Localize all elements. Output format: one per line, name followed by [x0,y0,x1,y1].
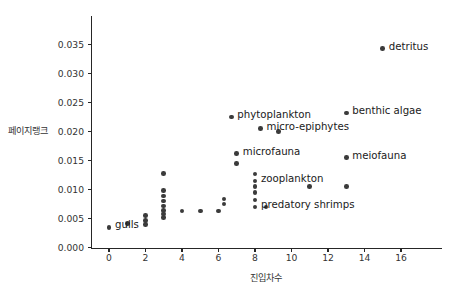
y-tick-label: 0.005 [40,214,84,223]
data-point-labeled [380,46,385,51]
data-point [253,198,258,203]
y-tick-label: 0.020 [40,127,84,136]
point-annotation: predatory shrimps [261,200,355,210]
data-point-labeled [229,115,234,120]
scatter-chart-figure: 페이지랭크 진입차수 0.0000.0050.0100.0150.0200.02… [0,0,452,304]
x-tick-label: 8 [240,253,270,262]
point-annotation: meiofauna [352,151,406,161]
x-axis-title: 진입차수 [196,273,336,282]
data-point [198,209,203,214]
data-point-labeled [253,205,258,210]
point-annotation: microfauna [243,147,301,157]
data-point [344,184,349,189]
data-point [253,184,258,189]
x-tick-label: 12 [313,253,343,262]
data-point [222,202,227,207]
y-tick-label: 0.010 [40,185,84,194]
x-tick-label: 6 [204,253,234,262]
x-tick-label: 2 [131,253,161,262]
data-point [180,209,185,214]
x-tick-label: 4 [167,253,197,262]
data-point [161,171,166,176]
y-tick-label: 0.030 [40,69,84,78]
plot-area: detritusbenthic algaephytoplanktonmicro-… [91,16,441,248]
y-tick-label: 0.035 [40,40,84,49]
y-tick-label: 0.015 [40,156,84,165]
data-point-labeled [258,126,263,131]
data-point [161,188,166,193]
y-tick-label: 0.000 [40,243,84,252]
y-tick-label: 0.025 [40,98,84,107]
x-tick-label: 10 [277,253,307,262]
data-point [161,215,166,220]
data-point [143,222,148,227]
data-point-labeled [253,179,258,184]
data-point [143,218,148,223]
x-tick-label: 14 [350,253,380,262]
data-point [253,172,258,177]
data-point [253,190,258,195]
x-tick-label: 16 [386,253,416,262]
data-point [307,184,312,189]
data-point-labeled [344,155,349,160]
data-point [161,194,166,199]
data-point [234,161,239,166]
point-annotation: benthic algae [352,106,421,116]
data-point [216,209,221,214]
x-tick-label: 0 [94,253,124,262]
point-annotation: gulls [115,220,139,230]
data-point [143,213,148,218]
data-point [161,199,166,204]
point-annotation: micro-epiphytes [266,122,349,132]
point-annotation: detritus [389,42,429,52]
data-point-labeled [344,111,349,116]
data-point-labeled [234,151,239,156]
point-annotation: phytoplankton [237,110,311,120]
data-point-labeled [107,225,112,230]
data-point [222,197,227,202]
point-annotation: zooplankton [261,174,323,184]
